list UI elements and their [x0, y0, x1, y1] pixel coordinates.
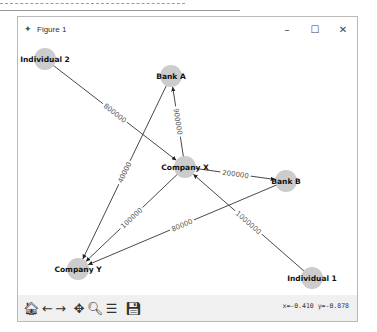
arrow-right-icon: → — [55, 301, 66, 316]
matplotlib-icon: ✦ — [24, 24, 34, 34]
node-label: Individual 2 — [20, 55, 70, 64]
close-icon: ✕ — [339, 24, 347, 35]
maximize-button[interactable]: ☐ — [301, 17, 329, 41]
figure-window: ✦ Figure 1 – ☐ ✕ 80000090000020000040000… — [17, 16, 358, 322]
node-label: Bank B — [271, 177, 301, 186]
move-icon: ✥ — [74, 301, 85, 316]
magnifier-icon: 🔍︎ — [87, 301, 104, 316]
home-icon: 🏠︎ — [23, 301, 40, 316]
forward-button[interactable]: → — [54, 298, 67, 318]
network-graph: 8000009000002000004000010000080000100000… — [18, 41, 357, 295]
sliders-icon: ☰ — [106, 301, 118, 316]
maximize-icon: ☐ — [311, 24, 320, 35]
node-label: Company X — [161, 163, 209, 172]
title-bar[interactable]: ✦ Figure 1 – ☐ ✕ — [18, 17, 357, 41]
edge-label: 800000 — [102, 102, 128, 125]
edge-label: 200000 — [222, 169, 250, 181]
arrow-left-icon: ← — [42, 301, 53, 316]
save-button[interactable]: 💾︎ — [124, 298, 143, 318]
plot-canvas[interactable]: 8000009000002000004000010000080000100000… — [18, 41, 357, 295]
edge-label: 900000 — [172, 108, 184, 136]
edge-label: 80000 — [170, 217, 194, 233]
node-label: Bank A — [156, 72, 186, 81]
window-title: Figure 1 — [37, 25, 66, 34]
edge-label: 100000 — [119, 206, 144, 230]
node-label: Company Y — [54, 265, 102, 274]
pan-button[interactable]: ✥ — [73, 298, 86, 318]
background-line — [0, 10, 240, 11]
minimize-icon: – — [285, 24, 290, 35]
edge-label: 40000 — [117, 161, 134, 185]
edge-label: 1000000 — [234, 210, 263, 237]
navigation-toolbar: 🏠︎←→✥🔍︎☰💾︎ x=-0.410 y=-0.878 — [18, 295, 357, 321]
save-icon: 💾︎ — [125, 301, 142, 316]
home-button[interactable]: 🏠︎ — [22, 298, 41, 318]
zoom-button[interactable]: 🔍︎ — [86, 298, 105, 318]
minimize-button[interactable]: – — [273, 17, 301, 41]
background-dashed-line — [0, 3, 185, 4]
back-button[interactable]: ← — [41, 298, 54, 318]
configure-button[interactable]: ☰ — [105, 298, 119, 318]
node-label: Individual 1 — [287, 274, 337, 283]
cursor-coordinates: x=-0.410 y=-0.878 — [282, 302, 349, 310]
close-button[interactable]: ✕ — [329, 17, 357, 41]
